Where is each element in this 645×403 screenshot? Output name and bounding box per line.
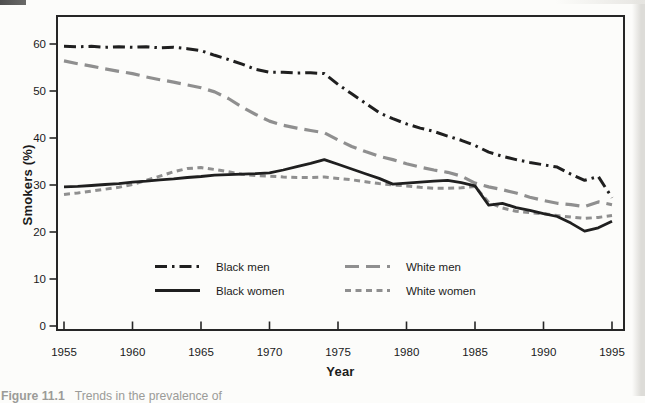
figure-caption-clipped: Figure 11.1Trends in the prevalence of [1, 389, 222, 403]
legend-item-black-men: Black men [154, 260, 270, 273]
legend-label-black-men: Black men [216, 261, 270, 273]
figure-caption-number: Figure 11.1 [1, 389, 65, 403]
legend-swatch-white-men-long-dash-line [344, 260, 391, 273]
legend-item-white-women: White women [344, 284, 476, 297]
y-tick-label: 10 [33, 273, 46, 285]
x-tick-label: 1975 [325, 346, 351, 358]
x-tick-label: 1970 [257, 346, 283, 358]
series-line-black-men [64, 46, 612, 197]
legend-item-white-men: White men [344, 260, 461, 273]
y-tick-label: 50 [33, 85, 46, 97]
x-tick-label: 1955 [51, 346, 77, 358]
y-tick-label: 0 [40, 320, 46, 332]
x-tick-label: 1980 [394, 346, 420, 358]
legend-label-white-women: White women [406, 285, 476, 297]
x-tick-label: 1965 [188, 346, 214, 358]
x-axis-title: Year [57, 364, 624, 379]
legend-item-black-women: Black women [154, 284, 284, 297]
x-tick-label: 1995 [599, 346, 625, 358]
x-tick-label: 1960 [120, 346, 146, 358]
y-tick-label: 30 [33, 179, 46, 191]
legend-swatch-black-men-dash-dot-line [154, 260, 201, 273]
legend-swatch-white-women-short-dash-line [344, 284, 391, 297]
x-tick-label: 1985 [462, 346, 488, 358]
series-line-black-women [64, 160, 612, 232]
y-axis-title-text: Smokers (%) [20, 145, 35, 226]
plot-frame [57, 16, 624, 330]
y-tick-label: 40 [33, 132, 46, 144]
legend-swatch-black-women-solid-line [154, 284, 201, 297]
x-tick-label: 1990 [531, 346, 557, 358]
figure-caption-text: Trends in the prevalence of [75, 389, 222, 403]
legend-label-black-women: Black women [216, 285, 284, 297]
legend-label-white-men: White men [406, 261, 461, 273]
y-tick-label: 60 [33, 38, 46, 50]
y-tick-label: 20 [33, 226, 46, 238]
